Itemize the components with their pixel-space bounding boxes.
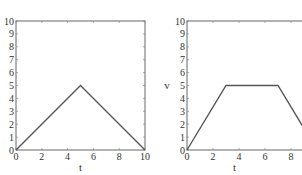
y-tick-label: 7 [180,54,185,65]
x-axis-label: t [79,161,82,173]
y-tick-label: 9 [180,28,185,39]
x-tick-label: 2 [39,151,44,162]
y-tick-label: 1 [180,132,185,143]
data-line [187,86,302,151]
x-tick-label: 2 [211,151,216,162]
y-tick-label: 2 [9,119,14,130]
x-tick-label: 10 [140,151,150,162]
y-tick-label: 9 [9,28,14,39]
y-tick-label: 4 [180,93,185,104]
right-chart: 01234567891002468tv [164,16,302,174]
x-tick-label: 8 [117,151,122,162]
left-chart: 0123456789100246810t [4,16,150,174]
y-axis-label: v [164,79,170,91]
x-tick-label: 6 [91,151,96,162]
y-tick-label: 2 [180,119,185,130]
y-tick-label: 5 [9,80,14,91]
x-tick-label: 4 [237,151,242,162]
y-tick-label: 6 [9,67,14,78]
charts-figure: 0123456789100246810t01234567891002468tv [0,0,302,175]
y-tick-label: 1 [9,132,14,143]
y-tick-label: 6 [180,67,185,78]
y-tick-label: 7 [9,54,14,65]
x-tick-label: 8 [289,151,294,162]
x-tick-label: 4 [65,151,70,162]
x-tick-label: 0 [185,151,190,162]
x-axis-label: t [233,161,236,173]
y-tick-label: 8 [180,41,185,52]
y-tick-label: 3 [180,106,185,117]
y-tick-label: 8 [9,41,14,52]
y-tick-label: 4 [9,93,14,104]
y-tick-label: 10 [4,16,14,27]
x-tick-label: 6 [263,151,268,162]
y-tick-label: 5 [180,80,185,91]
x-tick-label: 0 [14,151,19,162]
y-tick-label: 10 [175,16,185,27]
y-tick-label: 3 [9,106,14,117]
data-line [16,86,145,151]
